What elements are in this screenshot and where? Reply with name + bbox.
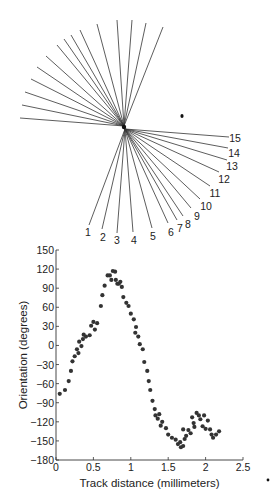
y-axis-label: Orientation (degrees): [17, 300, 29, 409]
data-point: [181, 427, 185, 431]
data-point: [208, 427, 212, 431]
figure: 123456789101112131415 1501209060300−30−6…: [0, 0, 271, 504]
data-point: [156, 417, 160, 421]
data-point: [174, 438, 178, 442]
data-point: [159, 424, 163, 428]
y-tick-label: −150: [30, 435, 54, 447]
data-point: [134, 325, 138, 329]
ray-label: 5: [150, 230, 156, 242]
data-point: [77, 340, 81, 344]
data-point: [126, 304, 130, 308]
stray-mark: [267, 479, 270, 482]
data-point: [166, 432, 170, 436]
x-tick-label: 2: [203, 461, 209, 473]
ray-label: 11: [210, 187, 221, 199]
ray-label: 14: [228, 147, 240, 159]
ray-label: 2: [100, 231, 106, 243]
x-tick-label: 0.5: [86, 461, 101, 473]
data-point: [198, 417, 202, 421]
data-point: [170, 436, 174, 440]
data-point: [121, 295, 125, 299]
data-point: [129, 312, 133, 316]
data-point: [67, 379, 71, 383]
fan-ray: [124, 20, 132, 126]
ray-label: 4: [131, 234, 137, 246]
ray-label: 8: [185, 218, 191, 230]
data-point: [120, 285, 124, 289]
data-point: [184, 434, 188, 438]
data-point: [100, 293, 104, 297]
data-point: [145, 369, 149, 373]
plot-axes: 1501209060300−30−60−90−120−150−18000.511…: [30, 244, 250, 473]
data-point: [93, 327, 97, 331]
data-point: [89, 324, 93, 328]
data-point: [192, 425, 196, 429]
data-point: [141, 347, 145, 351]
fan-ray-labeled: [89, 129, 125, 225]
data-point: [147, 379, 151, 383]
data-point: [84, 334, 88, 338]
x-tick-label: 2.5: [236, 461, 251, 473]
ray-label: 12: [218, 173, 230, 185]
data-point: [108, 273, 112, 277]
ray-label: 15: [229, 132, 241, 144]
data-point: [114, 278, 118, 282]
data-point: [69, 369, 73, 373]
y-tick-label: −60: [36, 378, 54, 390]
fan-ray: [20, 118, 124, 126]
fan-ray: [57, 45, 124, 126]
x-axis-label: Track distance (millimeters): [79, 477, 219, 489]
data-point: [133, 331, 137, 335]
y-tick-label: 60: [42, 301, 54, 313]
data-point: [73, 354, 77, 358]
data-point: [160, 420, 164, 424]
data-point: [118, 280, 122, 284]
data-point: [150, 399, 154, 403]
data-point: [211, 436, 215, 440]
fan-ray-labeled: [125, 129, 228, 148]
fan-ray: [124, 27, 163, 126]
data-point: [142, 360, 146, 364]
fan-ray: [117, 20, 124, 126]
data-point: [132, 317, 136, 321]
data-point: [214, 432, 218, 436]
x-tick-label: 1: [128, 461, 134, 473]
ray-label: 13: [226, 160, 238, 172]
data-point: [136, 334, 140, 338]
annotation-dot: [180, 114, 183, 118]
data-point: [206, 418, 210, 422]
ray-label: 3: [114, 234, 120, 246]
data-point: [202, 413, 206, 417]
x-tick-label: 0: [53, 461, 59, 473]
data-point: [164, 426, 168, 430]
orientation-scatter-plot: 1501209060300−30−60−90−120−150−18000.511…: [17, 244, 269, 489]
data-point: [99, 304, 103, 308]
fan-center: [122, 125, 126, 129]
data-point: [138, 342, 142, 346]
data-point: [75, 347, 79, 351]
data-point: [217, 429, 221, 433]
data-point: [88, 333, 92, 337]
data-point: [204, 427, 208, 431]
data-point: [63, 388, 67, 392]
data-point: [113, 270, 117, 274]
ray-label: 7: [177, 222, 183, 234]
fan-ray-labeled: [125, 129, 191, 208]
data-point: [95, 321, 99, 325]
data-points: [58, 269, 270, 482]
data-point: [79, 344, 83, 348]
data-point: [153, 407, 157, 411]
data-point: [109, 278, 113, 282]
y-tick-label: 90: [42, 282, 54, 294]
ray-label: 1: [85, 226, 91, 238]
data-point: [70, 359, 74, 363]
data-point: [91, 320, 95, 324]
ray-label: 6: [168, 226, 174, 238]
data-point: [181, 444, 185, 448]
y-tick-label: −180: [30, 454, 54, 466]
data-point: [189, 431, 193, 435]
fan-ray: [124, 23, 146, 126]
y-tick-label: 0: [48, 339, 54, 351]
data-point: [103, 284, 107, 288]
y-tick-label: −30: [36, 359, 54, 371]
